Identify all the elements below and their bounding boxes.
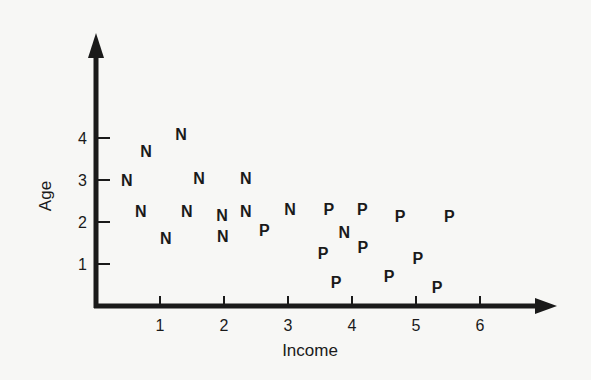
scatter-chart: 1234561234 NNNNNNNNNNNNNPPPPPPPPPPP Inco… — [0, 0, 591, 380]
axes — [88, 33, 557, 314]
data-point-p: P — [432, 279, 443, 296]
data-point-n: N — [121, 172, 133, 189]
data-point-p: P — [331, 274, 342, 291]
data-points: NNNNNNNNNNNNNPPPPPPPPPPP — [121, 126, 455, 296]
data-point-p: P — [384, 268, 395, 285]
data-point-n: N — [140, 143, 152, 160]
x-tick-label: 1 — [156, 317, 165, 334]
data-point-p: P — [259, 222, 270, 239]
y-axis-arrow-icon — [88, 33, 104, 58]
x-tick-label: 2 — [220, 317, 229, 334]
y-tick-label: 2 — [78, 214, 87, 231]
x-axis-label: Income — [282, 341, 338, 360]
x-tick-label: 6 — [476, 317, 485, 334]
data-point-n: N — [240, 170, 252, 187]
data-point-n: N — [284, 201, 296, 218]
data-point-p: P — [357, 201, 368, 218]
y-axis-label: Age — [36, 181, 55, 211]
data-point-n: N — [175, 126, 187, 143]
data-point-n: N — [339, 224, 351, 241]
data-point-n: N — [217, 228, 229, 245]
x-tick-label: 4 — [348, 317, 357, 334]
data-point-n: N — [216, 207, 228, 224]
x-tick-label: 3 — [284, 317, 293, 334]
data-point-p: P — [324, 201, 335, 218]
data-point-n: N — [135, 203, 147, 220]
data-point-p: P — [413, 250, 424, 267]
axis-ticks: 1234561234 — [78, 130, 484, 334]
data-point-p: P — [358, 239, 369, 256]
data-point-n: N — [181, 203, 193, 220]
y-tick-label: 3 — [78, 172, 87, 189]
x-axis-arrow-icon — [535, 298, 557, 314]
data-point-p: P — [395, 208, 406, 225]
y-tick-label: 4 — [78, 130, 87, 147]
data-point-n: N — [193, 170, 205, 187]
data-point-n: N — [160, 230, 172, 247]
data-point-p: P — [318, 245, 329, 262]
y-tick-label: 1 — [78, 256, 87, 273]
plot-area: 1234561234 NNNNNNNNNNNNNPPPPPPPPPPP Inco… — [0, 0, 591, 380]
x-tick-label: 5 — [412, 317, 421, 334]
data-point-p: P — [444, 208, 455, 225]
data-point-n: N — [240, 203, 252, 220]
